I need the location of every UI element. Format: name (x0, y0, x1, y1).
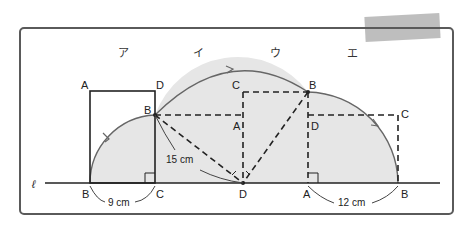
vertex-label: B (401, 188, 408, 200)
vertex-label: D (239, 188, 247, 200)
vertex-label: D (311, 120, 319, 132)
stage-label-u: ウ (270, 47, 281, 60)
vertex-label: B (309, 79, 316, 91)
vertex-label: C (401, 108, 409, 120)
stage-label-e: エ (347, 47, 358, 60)
vertex-label: C (232, 79, 240, 91)
vertex-label: B (144, 104, 151, 116)
vertex-label: A (81, 79, 89, 91)
vertex-label: C (156, 188, 164, 200)
line-label: ℓ (31, 178, 36, 190)
stage-label-a: ア (118, 47, 129, 60)
stage-label-i: イ (193, 47, 204, 60)
vertex-label: A (303, 188, 311, 200)
vertex-label: B (82, 188, 89, 200)
measure-label-9cm: 9 cm (108, 197, 130, 208)
rolling-rectangle-diagram: ア イ ウ エ ℓ A D B B C C B A D D C A B 9 cm… (0, 0, 473, 227)
shaded-region (90, 57, 398, 183)
measure-label-15cm: 15 cm (166, 154, 193, 165)
vertex-label: D (156, 79, 164, 91)
measure-label-12cm: 12 cm (338, 197, 365, 208)
vertex-label: A (233, 120, 241, 132)
